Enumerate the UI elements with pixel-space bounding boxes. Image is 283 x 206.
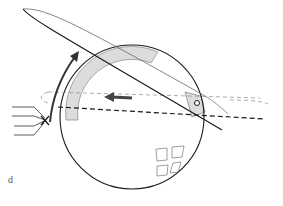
dashed-axis-line: [58, 107, 265, 119]
x-mark-icon: [41, 116, 49, 125]
pivot-circle: [195, 101, 200, 106]
panel-label: d: [8, 174, 13, 185]
fan-lines: [12, 107, 45, 135]
connector-curve: [205, 96, 228, 114]
diagram-figure: [0, 0, 283, 206]
straight-arrow-shaft: [112, 97, 132, 98]
shaded-arc-band: [66, 46, 158, 120]
elongated-body-lower-edge: [23, 9, 222, 130]
sphere-outline: [60, 45, 204, 189]
